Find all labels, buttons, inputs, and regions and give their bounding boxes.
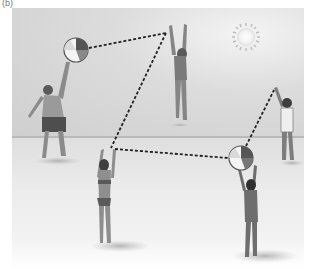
beach-ball-icon xyxy=(229,146,253,170)
player-woman-jumping xyxy=(169,24,187,120)
shadow xyxy=(170,123,190,127)
shadow xyxy=(90,240,150,252)
player-woman-holding-ball xyxy=(237,165,258,257)
shadow xyxy=(34,157,82,165)
sun-icon xyxy=(232,23,260,51)
beach-ball-icon xyxy=(64,38,88,62)
shadow xyxy=(280,160,304,166)
player-woman-bikini xyxy=(97,149,116,243)
illustration xyxy=(0,0,313,276)
player-boy-right xyxy=(274,87,294,160)
shadow xyxy=(231,249,299,263)
player-man-serving xyxy=(28,62,70,158)
